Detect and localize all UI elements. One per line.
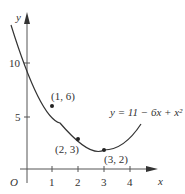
point-label-1-6: (1, 6) (51, 90, 75, 103)
x-axis-arrow-icon (146, 166, 158, 172)
equation-label: y = 11 − 6x + x² (109, 106, 183, 118)
x-tick-1: 1 (49, 176, 55, 188)
point-label-2-3: (2, 3) (55, 143, 79, 156)
point-2-3 (76, 137, 80, 141)
point-1-6 (50, 104, 54, 108)
y-axis-arrow-icon (24, 12, 30, 24)
point-3-2 (102, 148, 106, 152)
parabola-curve (11, 25, 141, 151)
x-tick-2: 2 (75, 176, 81, 188)
x-axis-label: x (157, 175, 163, 187)
x-tick-4: 4 (127, 176, 133, 188)
y-tick-10: 10 (9, 57, 21, 69)
y-axis-label: y (15, 11, 21, 23)
point-label-3-2: (3, 2) (104, 153, 128, 166)
y-tick-5: 5 (15, 111, 21, 123)
chart: y x O 1 2 3 4 10 5 (1, 6) (2, 3) (3, 2) … (0, 0, 185, 194)
origin-label: O (10, 176, 18, 188)
x-tick-3: 3 (101, 176, 107, 188)
